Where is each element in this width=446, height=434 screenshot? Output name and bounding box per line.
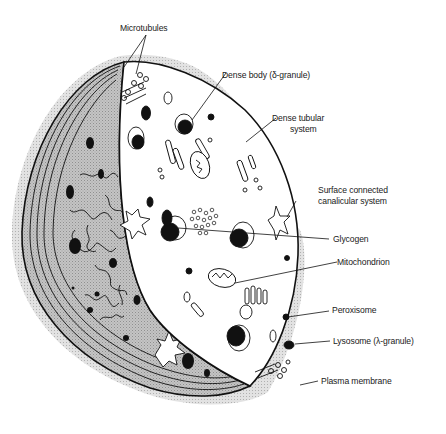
label-mitochondrion: Mitochondrion (337, 257, 390, 267)
label-glycogen: Glycogen (333, 234, 369, 244)
label-dense-tubular-system-line1: Dense tubular (272, 113, 324, 123)
label-dense-tubular-system-line2: system (290, 124, 317, 134)
label-plasma-membrane: Plasma membrane (321, 376, 392, 386)
platelet-diagram: Microtubules Dense body (δ-granule) Dens… (0, 0, 446, 434)
label-surface-connected-line2: canalicular system (318, 196, 387, 206)
label-peroxisome: Peroxisome (332, 305, 376, 315)
label-surface-connected-line1: Surface connected (318, 185, 388, 195)
label-lysosome: Lysosome (λ-granule) (333, 336, 414, 346)
label-microtubules: Microtubules (120, 23, 168, 33)
label-dense-body: Dense body (δ-granule) (222, 70, 310, 80)
